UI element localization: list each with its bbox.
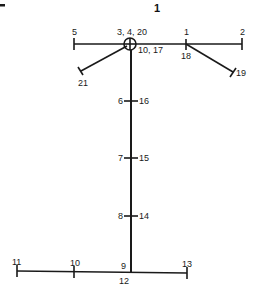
label-10-17: 10, 17 xyxy=(138,45,163,55)
label-3-4-20: 3, 4, 20 xyxy=(117,27,147,37)
label-15: 15 xyxy=(139,153,149,163)
label-16: 16 xyxy=(139,96,149,106)
label-10: 10 xyxy=(70,258,80,268)
figure-title: 1 xyxy=(154,2,160,14)
label-12: 12 xyxy=(119,276,129,286)
label-6: 6 xyxy=(118,96,123,106)
label-21: 21 xyxy=(78,78,88,88)
spine xyxy=(124,50,138,272)
label-5: 5 xyxy=(72,27,77,37)
label-18: 18 xyxy=(181,51,191,61)
label-9: 9 xyxy=(121,261,126,271)
left-diagonal xyxy=(78,46,127,75)
label-8: 8 xyxy=(118,211,123,221)
label-7: 7 xyxy=(118,153,123,163)
label-14: 14 xyxy=(139,211,149,221)
label-11: 11 xyxy=(12,257,21,267)
center-joint-icon xyxy=(124,38,136,50)
skeleton-diagram: 1 5 3, 4, 20 10, 17 1 18 2 xyxy=(0,0,258,294)
right-diagonal xyxy=(186,44,236,77)
corner-dash xyxy=(0,4,5,7)
label-19: 19 xyxy=(236,68,246,78)
label-13: 13 xyxy=(182,259,192,269)
label-2: 2 xyxy=(240,27,245,37)
label-1: 1 xyxy=(184,27,189,37)
bottom-bar xyxy=(17,265,187,279)
